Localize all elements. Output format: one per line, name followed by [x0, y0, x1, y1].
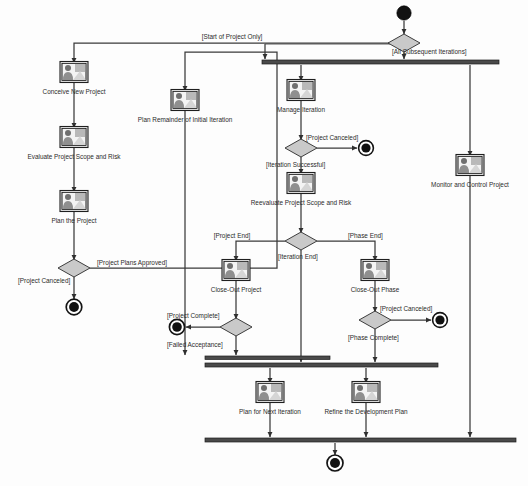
- activity-conceive-new-project[interactable]: [60, 62, 88, 83]
- activity-label-closephase: Close-Out Phase: [351, 286, 400, 293]
- activity-label-closeproj: Close-Out Project: [211, 286, 262, 294]
- activity-plan-the-project[interactable]: [60, 191, 88, 212]
- guard-start-of-project-only: [Start of Project Only]: [202, 33, 263, 41]
- activity-plan-for-next-iteration[interactable]: [256, 382, 284, 403]
- final-node-iteration-canceled[interactable]: [359, 141, 374, 156]
- activity-evaluate-project-scope-and-risk[interactable]: [60, 127, 88, 148]
- activity-reevaluate-project-scope-and-risk[interactable]: [287, 173, 315, 194]
- guard-iteration-successful: [Iteration Successful]: [266, 161, 326, 169]
- activity-plan-remainder-of-initial-iteration[interactable]: [171, 90, 199, 111]
- join-bar-accept: [205, 356, 330, 360]
- guard-failed-acceptance: [Failed Acceptance]: [167, 341, 223, 349]
- activity-label-manage: Manage Iteration: [277, 106, 325, 114]
- guard-project-canceled-plan: [Project Canceled]: [18, 277, 70, 285]
- join-bar-mid: [205, 363, 438, 367]
- decision-project-plans-approved[interactable]: [58, 259, 90, 277]
- activity-label-plannext: Plan for Next Iteration: [239, 408, 301, 415]
- activity-close-out-project[interactable]: [222, 260, 250, 281]
- initial-node-start[interactable]: [397, 6, 411, 20]
- activity-label-reevaluate: Reevaluate Project Scope and Risk: [251, 199, 352, 207]
- guard-project-canceled-phase: [Project Canceled]: [380, 305, 432, 313]
- guard-phase-complete: [Phase Complete]: [348, 334, 399, 342]
- guard-phase-end: [Phase End]: [348, 232, 383, 240]
- activity-diagram-canvas: Conceive New Project Evaluate Project Sc…: [0, 0, 528, 486]
- activity-refine-the-development-plan[interactable]: [352, 382, 380, 403]
- guard-iteration-end: [Iteration End]: [278, 253, 318, 261]
- decision-project-canceled[interactable]: [285, 139, 317, 157]
- guard-project-complete: [Project Complete]: [167, 312, 220, 320]
- activity-label-evaluate: Evaluate Project Scope and Risk: [27, 153, 121, 161]
- activity-label-planproj: Plan the Project: [51, 217, 96, 225]
- guard-all-subsequent-iterations: [All Subsequent Iterations]: [392, 48, 467, 56]
- final-node-project-canceled[interactable]: [66, 299, 82, 315]
- final-node-phase-canceled[interactable]: [433, 313, 448, 328]
- fork-bar-main: [262, 60, 499, 64]
- activity-label-monitor: Monitor and Control Project: [431, 181, 509, 189]
- final-node-end[interactable]: [327, 455, 343, 471]
- activity-label-planrem: Plan Remainder of Initial Iteration: [138, 116, 233, 123]
- join-bar-final: [205, 438, 516, 442]
- decision-acceptance[interactable]: [220, 318, 252, 336]
- decision-phase[interactable]: [359, 311, 391, 329]
- diagram-svg: Conceive New Project Evaluate Project Sc…: [0, 0, 528, 486]
- initial-nodes: [397, 6, 411, 20]
- guard-project-plans-approved: [Project Plans Approved]: [97, 259, 167, 267]
- edge-phase-end: [317, 241, 375, 261]
- decision-iteration-outcome[interactable]: [285, 232, 317, 250]
- activity-monitor-and-control-project[interactable]: [456, 155, 484, 176]
- final-node-project-complete[interactable]: [169, 319, 184, 334]
- activity-close-out-phase[interactable]: [361, 260, 389, 281]
- activity-nodes: [60, 62, 484, 403]
- activity-label-conceive: Conceive New Project: [43, 88, 106, 96]
- activity-label-refine: Refine the Development Plan: [324, 408, 408, 416]
- activity-manage-iteration[interactable]: [287, 80, 315, 101]
- guard-project-end: [Project End]: [214, 232, 251, 240]
- guard-project-canceled-iteration: [Project Canceled]: [306, 134, 358, 142]
